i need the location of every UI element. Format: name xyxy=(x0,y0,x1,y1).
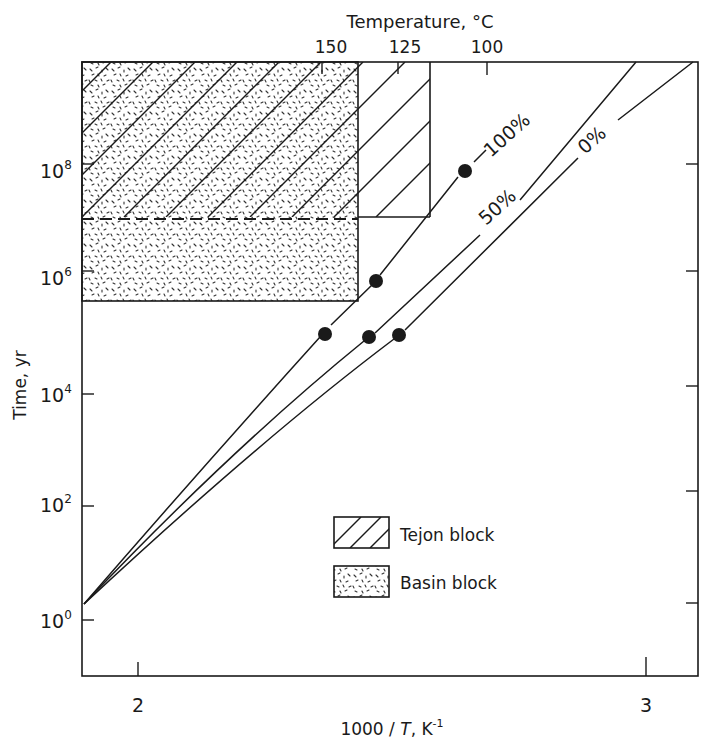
svg-text:104: 104 xyxy=(40,382,72,406)
data-point xyxy=(362,330,376,344)
chart: 100% 50% 0% 2 3 108 106 104 102 100 Time… xyxy=(0,0,711,740)
svg-text:100: 100 xyxy=(40,608,72,632)
basin-block-region xyxy=(82,62,358,301)
legend-swatch-tejon xyxy=(330,517,401,548)
y-axis-title: Time, yr xyxy=(10,350,30,420)
svg-text:108: 108 xyxy=(40,158,72,182)
legend: Tejon block Basin block xyxy=(330,517,497,597)
svg-text:106: 106 xyxy=(40,265,72,289)
data-point xyxy=(318,327,332,341)
data-point xyxy=(392,328,406,342)
top-tick-150: 150 xyxy=(315,37,347,57)
y-tick-labels: 108 106 104 102 100 xyxy=(40,158,72,632)
curve-label-0: 0% xyxy=(573,121,610,158)
legend-label-tejon: Tejon block xyxy=(399,525,495,545)
x-axis-title: 1000 / T, K-1 xyxy=(340,717,443,739)
data-point xyxy=(458,164,472,178)
top-axis-title: Temperature, °C xyxy=(345,11,493,32)
legend-label-basin: Basin block xyxy=(400,573,497,593)
curve-label-100: 100% xyxy=(479,108,534,161)
x-tick-label-2: 2 xyxy=(132,694,144,716)
top-tick-100: 100 xyxy=(471,37,503,57)
x-tick-label-3: 3 xyxy=(640,694,652,716)
data-point xyxy=(369,274,383,288)
top-tick-125: 125 xyxy=(389,37,421,57)
legend-swatch-basin xyxy=(334,566,389,597)
svg-text:102: 102 xyxy=(40,492,72,516)
